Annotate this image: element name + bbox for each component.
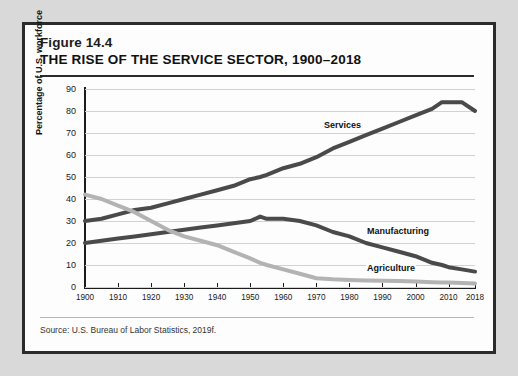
series-label-services: Services <box>323 120 362 130</box>
x-tick-label-1940: 1940 <box>208 293 226 302</box>
y-tick-label-60: 60 <box>54 150 76 160</box>
x-tick-label-1910: 1910 <box>109 293 127 302</box>
figure-number: Figure 14.4 <box>40 35 112 50</box>
y-tick-label-0: 0 <box>54 282 76 292</box>
x-tick-label-1990: 1990 <box>373 293 391 302</box>
x-tick-label-1930: 1930 <box>175 293 193 302</box>
series-lines <box>85 89 475 287</box>
source-note: Source: U.S. Bureau of Labor Statistics,… <box>40 325 216 335</box>
page-background: Figure 14.4 THE RISE OF THE SERVICE SECT… <box>0 0 518 376</box>
y-tick-label-30: 30 <box>54 216 76 226</box>
y-tick-label-90: 90 <box>54 84 76 94</box>
series-label-agriculture: Agriculture <box>366 263 416 273</box>
source-divider <box>40 317 474 318</box>
y-axis-label: Percentage of U.S. workforce <box>34 0 44 135</box>
figure-panel: Figure 14.4 THE RISE OF THE SERVICE SECT… <box>22 22 496 354</box>
x-tick-label-1980: 1980 <box>340 293 358 302</box>
x-tick-label-1900: 1900 <box>76 293 94 302</box>
plot-area <box>85 89 475 287</box>
y-tick-label-70: 70 <box>54 128 76 138</box>
x-tick-label-1950: 1950 <box>241 293 259 302</box>
x-tick-label-1970: 1970 <box>307 293 325 302</box>
x-tick-label-1920: 1920 <box>142 293 160 302</box>
x-tick-label-1960: 1960 <box>274 293 292 302</box>
gridline-0 <box>85 287 475 288</box>
x-tick-label-2000: 2000 <box>406 293 424 302</box>
line-manufacturing <box>85 217 475 272</box>
y-tick-label-10: 10 <box>54 260 76 270</box>
y-tick-label-50: 50 <box>54 172 76 182</box>
y-tick-label-20: 20 <box>54 238 76 248</box>
line-services <box>85 102 475 221</box>
y-tick-label-40: 40 <box>54 194 76 204</box>
figure-title: THE RISE OF THE SERVICE SECTOR, 1900–201… <box>40 52 361 67</box>
series-label-manufacturing: Manufacturing <box>366 226 430 236</box>
title-divider <box>40 75 474 77</box>
y-tick-label-80: 80 <box>54 106 76 116</box>
x-tick-label-2018: 2018 <box>466 293 484 302</box>
x-tick-label-2010: 2010 <box>439 293 457 302</box>
chart-container: Percentage of U.S. workforce 01020304050… <box>40 87 480 312</box>
